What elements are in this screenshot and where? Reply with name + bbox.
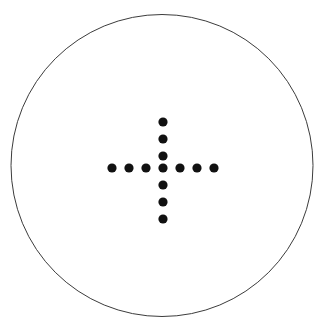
dot-h-left-1 xyxy=(141,163,150,172)
dot-h-right-3 xyxy=(209,163,218,172)
dot-h-right-2 xyxy=(192,163,201,172)
dot-layer xyxy=(107,117,218,223)
dot-cross-figure xyxy=(0,0,326,330)
dot-h-left-2 xyxy=(124,163,133,172)
dot-v-top-3 xyxy=(158,117,167,126)
figure-canvas xyxy=(0,0,326,330)
dot-center xyxy=(158,163,167,172)
dot-h-left-3 xyxy=(107,163,116,172)
dot-v-top-1 xyxy=(158,151,167,160)
dot-v-bottom-2 xyxy=(158,197,167,206)
dot-h-right-1 xyxy=(175,163,184,172)
dot-v-top-2 xyxy=(158,134,167,143)
dot-v-bottom-1 xyxy=(158,180,167,189)
dot-v-bottom-3 xyxy=(158,214,167,223)
